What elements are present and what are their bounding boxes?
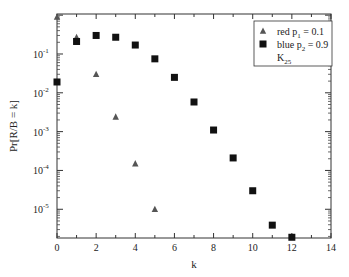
square-marker xyxy=(112,34,119,41)
square-marker xyxy=(93,32,100,39)
x-tick-label: 0 xyxy=(55,242,60,253)
x-axis-label: k xyxy=(191,258,197,270)
x-tick-label: 4 xyxy=(133,242,138,253)
y-tick-label: 10-4 xyxy=(33,163,49,176)
square-marker xyxy=(54,78,61,85)
y-axis-label: Pr[R/B = k] xyxy=(7,100,19,152)
triangle-marker xyxy=(93,71,99,77)
square-marker xyxy=(132,42,139,49)
square-marker xyxy=(269,222,276,229)
legend: red p1 = 0.1blue p2 = 0.9K25 xyxy=(254,21,332,66)
x-tick-label: 14 xyxy=(326,242,336,253)
x-tick-label: 12 xyxy=(287,242,297,253)
triangle-marker xyxy=(152,206,158,212)
square-marker xyxy=(73,38,80,45)
square-marker xyxy=(210,127,217,134)
x-tick-label: 6 xyxy=(172,242,177,253)
square-marker xyxy=(249,187,256,194)
log-scatter-plot: 02468101214 10-110-210-310-410-5 k Pr[R/… xyxy=(0,0,349,277)
triangle-marker xyxy=(113,113,119,119)
square-marker xyxy=(288,234,295,241)
square-marker xyxy=(191,98,198,105)
x-tick-label: 10 xyxy=(248,242,258,253)
x-tick-label: 2 xyxy=(94,242,99,253)
x-tick-label: 8 xyxy=(211,242,216,253)
y-tick-label: 10-1 xyxy=(33,47,49,60)
square-marker xyxy=(230,154,237,161)
y-tick-label: 10-5 xyxy=(33,202,49,215)
chart-container: 02468101214 10-110-210-310-410-5 k Pr[R/… xyxy=(0,0,349,277)
square-marker xyxy=(171,74,178,81)
triangle-marker xyxy=(132,160,138,166)
square-marker xyxy=(151,55,158,62)
y-tick-label: 10-2 xyxy=(33,86,49,99)
legend-square-icon xyxy=(260,41,267,48)
y-tick-label: 10-3 xyxy=(33,125,49,138)
